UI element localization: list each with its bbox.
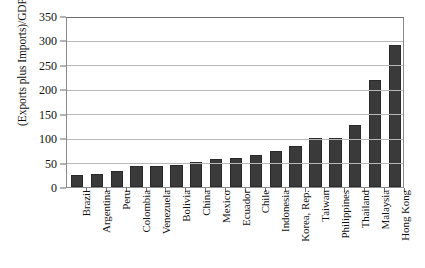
x-tick-label-10: Indonesia (279, 190, 291, 232)
bar-thailand (349, 125, 361, 187)
bar-indonesia (270, 151, 282, 187)
x-tick-label-12: Taiwan (319, 190, 331, 222)
bar-fill (170, 165, 182, 187)
bar-colombia (130, 166, 142, 187)
x-tick-label-5: Bolivia (180, 190, 192, 222)
bar-fill (71, 175, 83, 187)
gridline-150 (67, 114, 403, 115)
bar-korea-rep (289, 146, 301, 187)
plot-area (66, 17, 404, 188)
bar-chile (250, 155, 262, 187)
bar-fill (150, 166, 162, 187)
x-tick-label-7: Mexico (220, 190, 232, 223)
bar-malaysia (369, 80, 381, 187)
gridline-250 (67, 65, 403, 66)
x-tick-label-11: Korea, Rep. (299, 190, 311, 242)
bar-venezuela (150, 166, 162, 187)
y-axis-tick-labels: 050100150200250300350 (0, 0, 66, 200)
x-tick-label-4: Venezuela (160, 190, 172, 234)
x-tick-label-1: Argentina (100, 190, 112, 233)
bar-fill (270, 151, 282, 187)
bar-brazil (71, 175, 83, 187)
bar-bolivia (170, 165, 182, 187)
x-tick-label-13: Philippines (339, 190, 351, 238)
x-tick-label-2: Peru (120, 190, 132, 210)
bar-china (190, 162, 202, 187)
bar-peru (111, 171, 123, 187)
bar-fill (111, 171, 123, 187)
bar-fill (190, 162, 202, 187)
bar-fill (389, 45, 401, 187)
bar-fill (369, 80, 381, 187)
bar-fill (91, 174, 103, 187)
gridline-200 (67, 90, 403, 91)
bar-fill (250, 155, 262, 187)
gridline-300 (67, 41, 403, 42)
x-tick-label-9: Chile (259, 190, 271, 213)
x-tick-label-15: Malaysia (379, 190, 391, 230)
y-tick-label-100: 100 (39, 133, 57, 145)
x-axis-tick-labels: BrazilArgentinaPeruColombiaVenezuelaBoli… (66, 190, 404, 268)
chart-figure: (Exports plus Imports)/GDP 0501001502002… (0, 0, 425, 268)
bar-series (67, 18, 403, 187)
gridline-100 (67, 139, 403, 140)
bar-fill (289, 146, 301, 187)
x-tick-label-6: China (200, 190, 212, 216)
x-tick-label-14: Thailand (359, 190, 371, 228)
gridline-50 (67, 163, 403, 164)
x-tick-label-3: Colombia (140, 190, 152, 233)
y-tick-label-150: 150 (39, 109, 57, 121)
y-tick-label-300: 300 (39, 35, 57, 47)
x-tick-label-16: Hong Kong (399, 190, 411, 241)
bar-hong-kong (389, 45, 401, 187)
y-tick-label-50: 50 (45, 158, 57, 170)
bar-argentina (91, 174, 103, 187)
y-tick-label-350: 350 (39, 11, 57, 23)
x-tick-label-8: Ecuador (240, 190, 252, 226)
y-tick-label-0: 0 (51, 182, 57, 194)
bar-fill (349, 125, 361, 187)
x-tick-label-0: Brazil (80, 190, 92, 216)
bar-fill (130, 166, 142, 187)
y-tick-label-200: 200 (39, 84, 57, 96)
y-tick-label-250: 250 (39, 60, 57, 72)
